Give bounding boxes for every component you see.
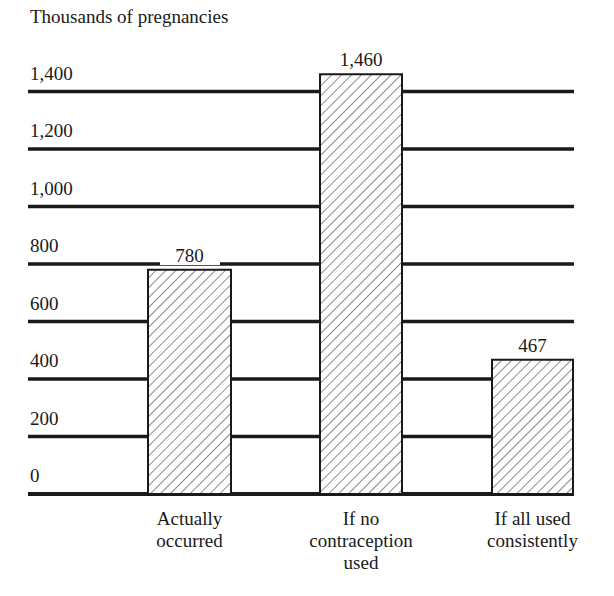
chart-plot-area [0, 0, 614, 596]
y-tick-label: 400 [30, 351, 59, 370]
x-category-label: Actuallyoccurred [125, 508, 255, 552]
x-category-label: If all usedconsistently [468, 508, 598, 552]
y-tick-label: 1,200 [30, 121, 73, 140]
bar-value-label: 467 [503, 336, 563, 355]
bar-value-label: 780 [160, 246, 220, 265]
bar-chart: Thousands of pregnancies 02004006008001,… [0, 0, 614, 596]
bar-value-label: 1,460 [331, 50, 391, 69]
y-tick-label: 0 [30, 466, 40, 485]
bar [492, 360, 573, 494]
y-tick-label: 1,400 [30, 64, 73, 83]
bar [148, 270, 231, 494]
y-tick-label: 1,000 [30, 179, 73, 198]
y-tick-label: 800 [30, 236, 59, 255]
y-tick-label: 600 [30, 294, 59, 313]
bars [148, 74, 573, 494]
y-tick-label: 200 [30, 409, 59, 428]
x-category-label: If nocontraceptionused [296, 508, 426, 574]
bar [320, 74, 402, 494]
y-axis-label: Thousands of pregnancies [30, 6, 228, 28]
